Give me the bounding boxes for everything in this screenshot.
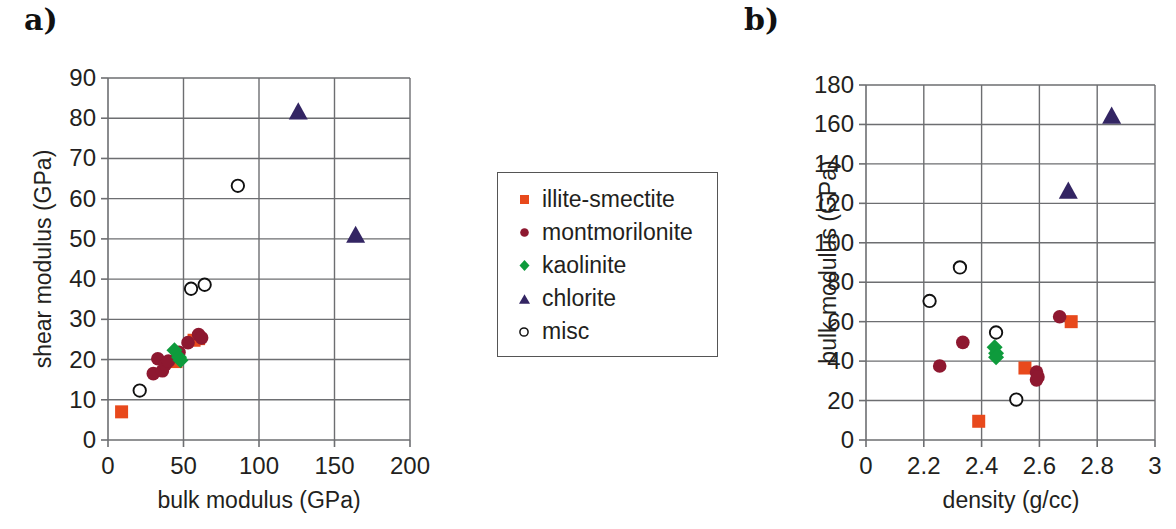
legend-label-illite-smectite: illite-smectite — [542, 186, 675, 213]
scatter-plot-panel-b: 02040608010012014016018002.22.42.62.83 d… — [730, 0, 1176, 529]
data-point-chlorite — [289, 102, 308, 119]
data-point-misc — [185, 283, 197, 295]
data-point-montmorilonite — [1031, 370, 1045, 384]
legend-item-chlorite[interactable]: chlorite — [512, 282, 693, 315]
scatter-plot-panel-a: 0102030405060708090050100150200 bulk mod… — [0, 0, 470, 529]
legend-label-chlorite: chlorite — [542, 285, 616, 312]
y-tick-label: 180 — [814, 71, 854, 99]
y-tick-label: 70 — [69, 144, 96, 172]
x-tick-label: 50 — [170, 452, 197, 480]
y-tick-label: 90 — [69, 64, 96, 92]
data-point-chlorite — [346, 226, 365, 243]
legend-label-misc: misc — [542, 318, 589, 345]
data-point-misc — [954, 261, 966, 273]
y-tick-label: 0 — [83, 426, 96, 454]
figure-root: a) b) 0102030405060708090050100150200 bu… — [0, 0, 1176, 529]
panel-a-x-axis-title: bulk modulus (GPa) — [157, 487, 360, 514]
data-point-chlorite — [1059, 182, 1078, 199]
data-point-misc — [198, 279, 210, 291]
y-tick-label: 50 — [69, 225, 96, 253]
panel-b-y-axis-title: bulk modulus (GPa) — [815, 160, 842, 363]
y-tick-label: 80 — [69, 104, 96, 132]
legend-item-illite-smectite[interactable]: illite-smectite — [512, 183, 693, 216]
data-point-illite-smectite — [1018, 362, 1031, 375]
legend-label-montmorilonite: montmorilonite — [542, 219, 693, 246]
triangle-marker-icon — [512, 293, 536, 305]
data-point-illite-smectite — [115, 405, 128, 418]
circle-marker-icon — [512, 227, 536, 238]
x-tick-label: 2.6 — [1023, 452, 1056, 480]
x-tick-label: 2.2 — [907, 452, 940, 480]
x-tick-label: 200 — [390, 452, 430, 480]
data-point-misc — [1010, 393, 1022, 405]
legend: illite-smectite montmorilonite kaolinite… — [497, 172, 718, 357]
y-tick-label: 30 — [69, 305, 96, 333]
data-point-montmorilonite — [195, 331, 209, 345]
data-point-misc — [923, 295, 935, 307]
data-point-montmorilonite — [956, 336, 970, 350]
panel-b-canvas — [730, 0, 1176, 529]
panel-b-x-axis-title: density (g/cc) — [943, 487, 1080, 514]
data-point-illite-smectite — [1065, 315, 1078, 328]
open-circle-marker-icon — [512, 326, 536, 338]
x-tick-label: 150 — [314, 452, 354, 480]
data-point-montmorilonite — [933, 359, 947, 373]
data-point-misc — [990, 326, 1002, 338]
y-tick-label: 160 — [814, 110, 854, 138]
y-tick-label: 20 — [69, 346, 96, 374]
x-tick-label: 0 — [859, 452, 872, 480]
legend-label-kaolinite: kaolinite — [542, 252, 626, 279]
legend-item-misc[interactable]: misc — [512, 315, 693, 348]
data-point-misc — [232, 180, 244, 192]
y-tick-label: 20 — [827, 387, 854, 415]
x-tick-label: 3 — [1148, 452, 1161, 480]
data-point-illite-smectite — [972, 415, 985, 428]
data-point-montmorilonite — [1053, 310, 1067, 324]
y-tick-label: 60 — [69, 185, 96, 213]
legend-items: illite-smectite montmorilonite kaolinite… — [512, 183, 693, 348]
y-tick-label: 0 — [841, 426, 854, 454]
legend-item-kaolinite[interactable]: kaolinite — [512, 249, 693, 282]
diamond-marker-icon — [512, 259, 536, 272]
legend-item-montmorilonite[interactable]: montmorilonite — [512, 216, 693, 249]
panel-a-y-axis-title: shear modulus (GPa) — [30, 150, 57, 369]
x-tick-label: 2.4 — [965, 452, 998, 480]
square-marker-icon — [512, 194, 536, 205]
y-tick-label: 10 — [69, 386, 96, 414]
x-tick-label: 2.8 — [1081, 452, 1114, 480]
x-tick-label: 100 — [239, 452, 279, 480]
y-tick-label: 40 — [69, 265, 96, 293]
data-point-misc — [134, 384, 146, 396]
x-tick-label: 0 — [101, 452, 114, 480]
data-point-chlorite — [1102, 107, 1121, 124]
